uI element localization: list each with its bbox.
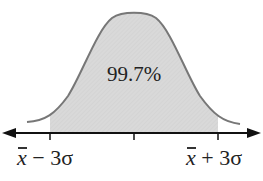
x-bar-symbol: x: [186, 145, 196, 171]
left-arrow-icon: [2, 128, 16, 138]
minus-3sigma-text: − 3σ: [27, 145, 73, 170]
normal-distribution-figure: 99.7% x − 3σ x + 3σ: [0, 0, 263, 181]
right-arrow-icon: [247, 128, 261, 138]
plus-3sigma-text: + 3σ: [196, 145, 242, 170]
x-bar-symbol: x: [17, 145, 27, 171]
minus-3sigma-label: x − 3σ: [17, 145, 73, 171]
plus-3sigma-label: x + 3σ: [186, 145, 242, 171]
percent-label: 99.7%: [84, 62, 184, 87]
